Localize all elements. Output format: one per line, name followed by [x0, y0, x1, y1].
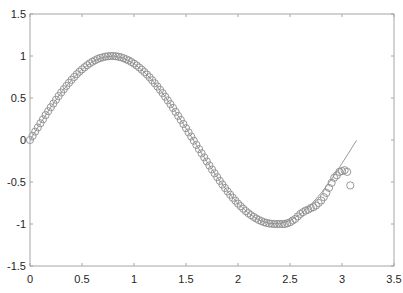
x-tick-label: 3: [339, 273, 345, 285]
y-tick-label: -1.5: [7, 260, 26, 272]
chart: 00.511.522.533.5 1.510.50-0.5-1-1.5: [0, 0, 403, 293]
x-tick-label: 1: [131, 273, 137, 285]
axes-background: [30, 14, 394, 266]
y-tick-label: 0.5: [11, 92, 26, 104]
x-tick-label: 1.5: [178, 273, 193, 285]
y-tick-label: -1: [16, 218, 26, 230]
x-tick-label: 0.5: [74, 273, 89, 285]
x-tick-label: 2.5: [282, 273, 297, 285]
x-tick-label: 0: [27, 273, 33, 285]
y-tick-label: 0: [20, 134, 26, 146]
x-tick-label: 3.5: [386, 273, 401, 285]
y-tick-label: -0.5: [7, 176, 26, 188]
y-tick-label: 1: [20, 50, 26, 62]
y-tick-label: 1.5: [11, 8, 26, 20]
x-tick-label: 2: [235, 273, 241, 285]
